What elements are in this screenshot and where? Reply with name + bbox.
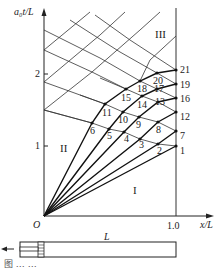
node-label-7: 7: [180, 130, 185, 141]
wave-diagram: a₀t/L x/L O 1 2 1.0 I II III: [0, 0, 224, 268]
origin-label: O: [33, 219, 40, 230]
node-label-15: 15: [121, 92, 131, 103]
x-tick-label-1: 1.0: [167, 220, 180, 231]
x-axis-arrow-icon: [206, 214, 214, 219]
y-tick-label-2: 2: [35, 68, 40, 79]
node-label-16: 16: [180, 93, 190, 104]
y-tick-label-1: 1: [35, 140, 40, 151]
tube-length-label: L: [103, 231, 110, 242]
node-label-14: 14: [137, 99, 147, 110]
node-label-2: 2: [157, 145, 162, 156]
node-label-4: 4: [124, 133, 129, 144]
tube-schematic: L: [1, 231, 176, 257]
node-label-5: 5: [107, 130, 112, 141]
region-label-I: I: [133, 184, 137, 196]
node-label-6: 6: [90, 125, 95, 136]
node-label-9: 9: [136, 119, 141, 130]
y-axis-label: a₀t/L: [14, 6, 34, 17]
x-axis-label: x/L: [199, 219, 213, 230]
node-label-8: 8: [156, 124, 161, 135]
node-label-11: 11: [102, 107, 112, 118]
left-arrow-icon: [1, 247, 7, 252]
piston-rod: [20, 247, 38, 251]
node-label-12: 12: [180, 111, 190, 122]
node-label-3: 3: [139, 139, 144, 150]
node-label-21: 21: [180, 64, 190, 75]
region-label-II: II: [60, 142, 68, 154]
piston: [38, 242, 44, 257]
node-label-1: 1: [180, 145, 185, 156]
node-label-20: 20: [153, 75, 163, 86]
node-label-19: 19: [180, 79, 190, 90]
figure-caption: 图 … …: [4, 259, 37, 268]
y-axis-arrow-icon: [42, 8, 47, 16]
node-labels: 1 2 3 4 5 6 7 8 9 10 11 12 13 14 15 16 1…: [90, 64, 190, 156]
node-label-18: 18: [137, 83, 147, 94]
region-label-III: III: [155, 28, 166, 40]
node-label-13: 13: [155, 96, 165, 107]
node-label-10: 10: [118, 114, 128, 125]
